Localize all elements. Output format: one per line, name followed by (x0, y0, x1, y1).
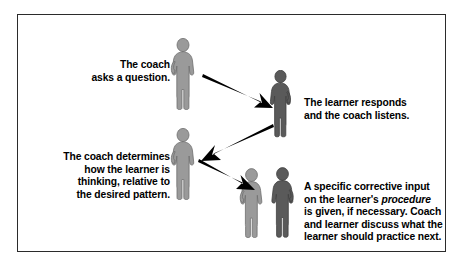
diagram-border: The coach asks a question. The learner r… (17, 14, 446, 252)
caption-coach-determines: The coach determines how the learner is … (40, 151, 170, 201)
caption-corrective-input: A specific corrective input on the learn… (304, 181, 458, 244)
diagram-canvas: The coach asks a question. The learner r… (0, 0, 463, 268)
figure-coach-asking (166, 38, 200, 113)
arrow-coach-to-learner-icon (202, 72, 274, 114)
caption-corrective-tail: is given, if necessary. Coach and learne… (304, 206, 443, 242)
figure-learner-discussing (266, 167, 299, 241)
caption-coach-asks-question: The coach asks a question. (58, 59, 170, 84)
figure-coach-determining (166, 128, 200, 203)
caption-learner-responds: The learner responds and the coach liste… (304, 97, 454, 122)
caption-corrective-emphasis: procedure (381, 194, 430, 205)
arrow-coach-to-pair-icon (198, 157, 256, 197)
